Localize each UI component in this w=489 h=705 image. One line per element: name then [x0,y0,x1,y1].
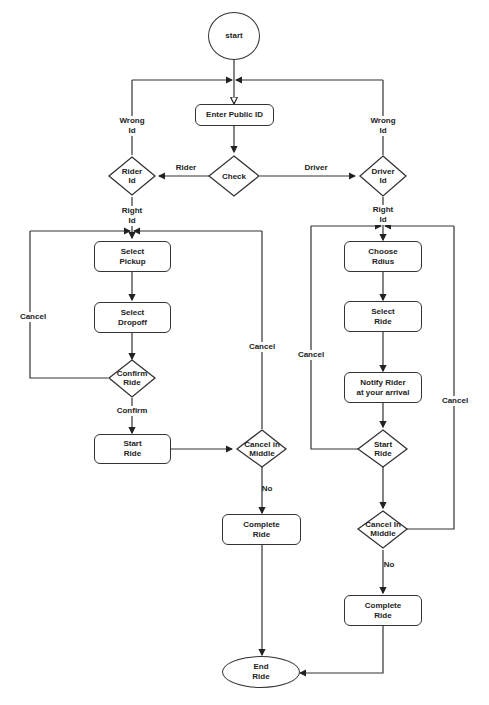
start-ride-driver-label: Start Ride [358,439,408,459]
driver-id-label: Driver Id [360,166,406,186]
edge-label-wrong-id-right: Wrong Id [370,116,395,136]
edge-label-cancel-driver-right: Cancel [442,396,468,406]
choose-radius-node: Choose Rdius [344,241,422,272]
select-ride-node: Select Ride [344,301,422,332]
start-ride-rider-node: Start Ride [94,434,171,464]
complete-ride-driver-node: Complete Ride [344,595,422,626]
edge-label-driver: Driver [304,163,327,173]
edge-label-cancel-left-loop: Cancel [20,312,46,322]
edge-label-right-id-left: Right Id [122,206,142,226]
end-ride-node: End Ride [222,656,300,688]
start-node: start [208,12,260,60]
edge-label-confirm: Confirm [117,406,148,416]
edge-label-wrong-id-left: Wrong Id [119,116,144,136]
complete-ride-rider-node: Complete Ride [222,514,301,545]
select-dropoff-node: Select Dropoff [94,302,171,333]
cancel-in-middle-rider-label: Cancel in Middle [237,439,287,459]
edge-label-no-driver: No [384,560,395,570]
edge-label-no-rider: No [262,484,273,494]
edge-label-cancel-driver-left: Cancel [298,350,324,360]
rider-id-label: Rider Id [109,166,155,186]
select-pickup-node: Select Pickup [94,241,171,272]
notify-rider-node: Notify Rider at your arrival [344,372,422,403]
edge-label-right-id-right: Right Id [373,205,393,225]
edge-label-cancel-rider-middle: Cancel [249,342,275,352]
enter-public-id-node: Enter Public ID [195,104,274,126]
edge-label-rider: Rider [176,163,196,173]
cancel-in-middle-driver-label: Cancel In Middle [358,519,408,539]
confirm-ride-label: Confirm Ride [109,368,155,388]
check-label: Check [209,166,259,186]
